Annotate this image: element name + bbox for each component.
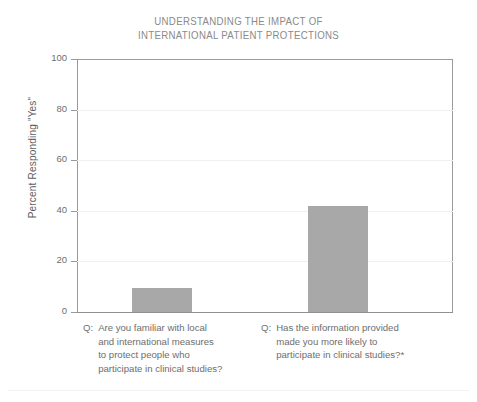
chart-title-line-2: INTERNATIONAL PATIENT PROTECTIONS bbox=[19, 28, 458, 42]
question-text: Are you familiar with localand internati… bbox=[98, 321, 222, 375]
question-text-line: to protect people who bbox=[98, 348, 222, 362]
y-tick-mark bbox=[71, 261, 77, 262]
question-text-line: made you more likely to bbox=[276, 335, 404, 349]
gridline bbox=[77, 160, 453, 161]
question-text: Has the information providedmade you mor… bbox=[276, 321, 404, 362]
y-tick-label: 0 bbox=[0, 306, 67, 316]
y-tick-mark bbox=[71, 59, 77, 60]
question-text-line: Has the information provided bbox=[276, 321, 404, 335]
question-text-line: Are you familiar with local bbox=[98, 321, 222, 335]
bar bbox=[132, 288, 192, 312]
question-prefix: Q: bbox=[261, 321, 276, 335]
gridline bbox=[77, 261, 453, 262]
y-tick-label: 100 bbox=[0, 53, 67, 63]
chart-title: UNDERSTANDING THE IMPACT OF INTERNATIONA… bbox=[19, 14, 458, 42]
y-tick-mark bbox=[71, 211, 77, 212]
x-axis-category-label: Q:Has the information providedmade you m… bbox=[261, 321, 404, 362]
question-text-line: participate in clinical studies? bbox=[98, 362, 222, 376]
y-tick-label: 60 bbox=[0, 154, 67, 164]
question-text-line: participate in clinical studies?* bbox=[276, 348, 404, 362]
figure-bottom-rule bbox=[8, 390, 469, 391]
question-prefix: Q: bbox=[83, 321, 98, 335]
plot-area bbox=[77, 59, 453, 313]
y-tick-mark bbox=[71, 160, 77, 161]
x-axis-category-label: Q:Are you familiar with localand interna… bbox=[83, 321, 222, 375]
question-text-line: and international measures bbox=[98, 335, 222, 349]
y-tick-label: 80 bbox=[0, 104, 67, 114]
y-tick-label: 40 bbox=[0, 205, 67, 215]
y-tick-label: 20 bbox=[0, 255, 67, 265]
gridline bbox=[77, 110, 453, 111]
y-tick-mark bbox=[71, 110, 77, 111]
chart-title-line-1: UNDERSTANDING THE IMPACT OF bbox=[19, 14, 458, 28]
bar bbox=[308, 206, 368, 312]
y-tick-mark bbox=[71, 312, 77, 313]
gridline bbox=[77, 211, 453, 212]
